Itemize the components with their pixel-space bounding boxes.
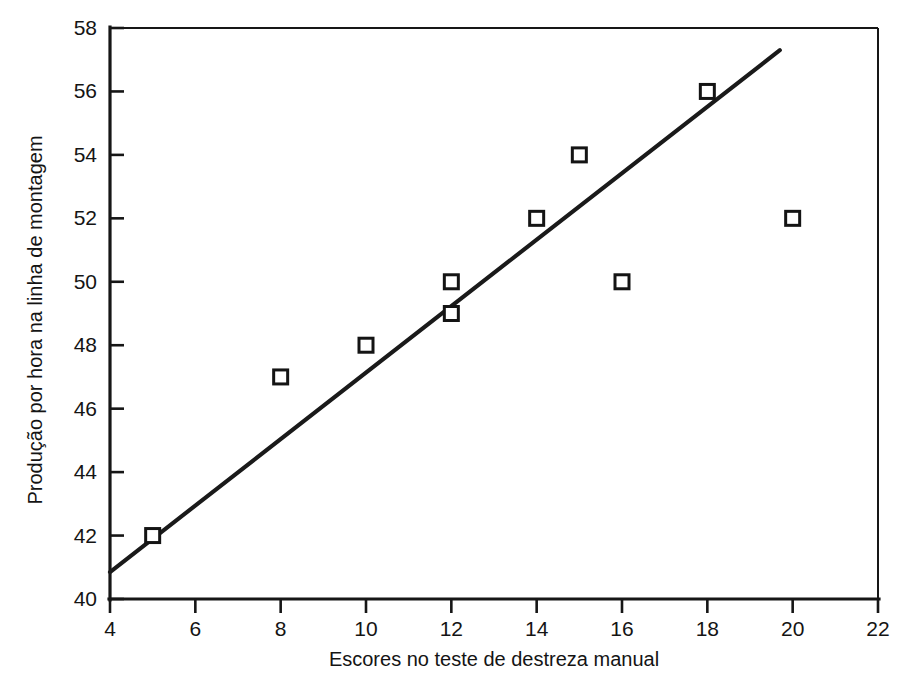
x-tick-label-6: 6 (189, 617, 201, 640)
data-point-marker (786, 211, 800, 225)
data-point-marker (274, 370, 288, 384)
x-tick-label-14: 14 (525, 617, 549, 640)
y-tick-label-58: 58 (74, 16, 97, 39)
x-tick-label-20: 20 (781, 617, 804, 640)
y-tick-label-52: 52 (74, 206, 97, 229)
y-tick-label-46: 46 (74, 397, 97, 420)
y-tick-label-54: 54 (74, 143, 98, 166)
data-point-marker (530, 211, 544, 225)
data-point-marker (615, 275, 629, 289)
chart-canvas: 40424446485052545658 46810121416182022 E… (0, 0, 916, 686)
x-tick-label-18: 18 (696, 617, 719, 640)
x-tick-label-22: 22 (866, 617, 889, 640)
y-tick-label-48: 48 (74, 333, 97, 356)
x-tick-label-10: 10 (354, 617, 377, 640)
x-tick-label-8: 8 (275, 617, 287, 640)
x-tick-label-4: 4 (104, 617, 116, 640)
data-point-marker (700, 84, 714, 98)
data-point-marker (572, 148, 586, 162)
data-point-marker (146, 529, 160, 543)
x-tick-label-16: 16 (610, 617, 633, 640)
data-point-marker (444, 307, 458, 321)
y-axis-title: Produção por hora na linha de montagem (24, 135, 46, 504)
chart-background (0, 0, 916, 686)
x-axis-title: Escores no teste de destreza manual (329, 648, 659, 670)
y-tick-label-50: 50 (74, 270, 97, 293)
y-tick-label-42: 42 (74, 524, 97, 547)
x-tick-label-12: 12 (440, 617, 463, 640)
y-tick-label-40: 40 (74, 587, 97, 610)
y-tick-label-56: 56 (74, 79, 97, 102)
data-point-marker (359, 338, 373, 352)
scatter-plot-figure: 40424446485052545658 46810121416182022 E… (0, 0, 916, 686)
y-tick-label-44: 44 (74, 460, 98, 483)
data-point-marker (444, 275, 458, 289)
